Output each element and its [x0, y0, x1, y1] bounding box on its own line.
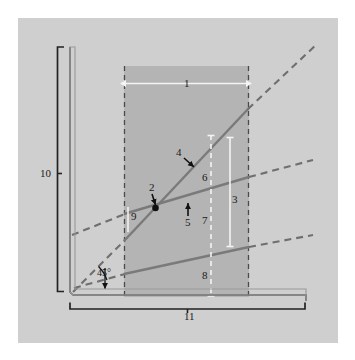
label-5: 5	[185, 217, 191, 228]
label-1: 1	[184, 78, 190, 89]
figure-canvas: 1 2 3 4 5 6 7 8 9 10 11 45°	[0, 0, 355, 360]
bracket-horizontal-11	[70, 303, 305, 310]
steep-line-dashed-lower	[73, 240, 125, 292]
label-4: 4	[176, 147, 182, 158]
label-7: 7	[202, 215, 208, 226]
label-angle-45: 45°	[97, 268, 111, 278]
middle-line-dashed-left	[72, 214, 125, 235]
middle-line-dashed-right	[249, 160, 313, 177]
intersection-point-marker	[152, 205, 159, 212]
steep-line-dashed-upper	[248, 44, 317, 109]
lower-line-dashed-right	[249, 235, 313, 247]
bracket-vertical-10	[58, 47, 65, 292]
label-10: 10	[40, 168, 51, 179]
label-9: 9	[131, 211, 137, 222]
label-3: 3	[232, 194, 238, 205]
label-8: 8	[202, 270, 208, 281]
label-11: 11	[184, 311, 195, 322]
label-2: 2	[149, 182, 155, 193]
label-6: 6	[202, 172, 208, 183]
diagram-svg	[0, 0, 355, 360]
